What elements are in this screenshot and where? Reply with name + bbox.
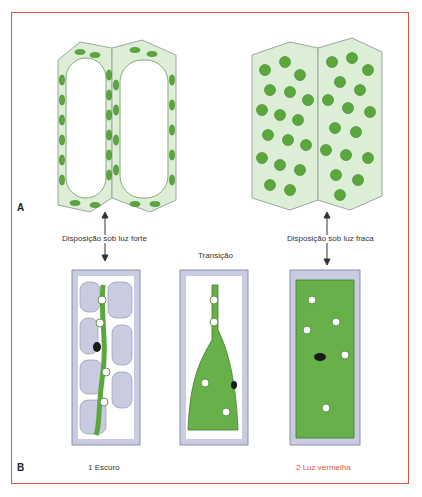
weak-light-cells bbox=[252, 38, 382, 210]
red-light-label: 2 Luz vermelha bbox=[296, 463, 351, 472]
dark-label: 1 Escuro bbox=[88, 463, 120, 472]
figure-illustration bbox=[0, 0, 422, 497]
strong-light-cells bbox=[58, 40, 176, 212]
dark-cell bbox=[72, 270, 140, 445]
transition-label: Transição bbox=[198, 251, 233, 260]
panel-b-letter: B bbox=[17, 462, 24, 473]
weak-light-label: Disposição sob luz fraca bbox=[287, 234, 374, 243]
panel-a-letter: A bbox=[17, 202, 24, 213]
red-light-cell bbox=[290, 270, 360, 445]
strong-light-label: Disposição sob luz forte bbox=[62, 234, 147, 243]
